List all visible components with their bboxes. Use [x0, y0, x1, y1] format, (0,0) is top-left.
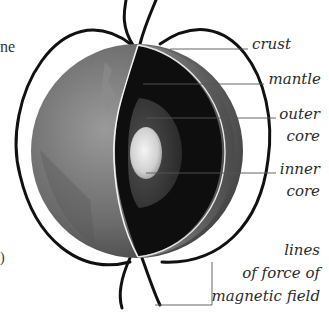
label-outer-core-line2: core — [287, 128, 320, 145]
label-inner-core-line1: inner — [280, 161, 320, 178]
label-field-line3: magnetic field — [211, 288, 320, 305]
globe — [31, 44, 243, 258]
left-text-fragment-top: ne — [0, 38, 15, 56]
label-crust: crust — [252, 36, 291, 53]
label-outer-core-line1: outer — [279, 106, 320, 123]
label-field-line2: of force of — [242, 265, 320, 282]
label-mantle: mantle — [268, 71, 321, 88]
label-field-line1: lines — [284, 242, 320, 259]
left-text-fragment-bottom: ) — [0, 250, 5, 266]
label-inner-core-line2: core — [287, 183, 320, 200]
earth-diagram: ne ) crust mantle outer core inner core … — [0, 0, 329, 315]
